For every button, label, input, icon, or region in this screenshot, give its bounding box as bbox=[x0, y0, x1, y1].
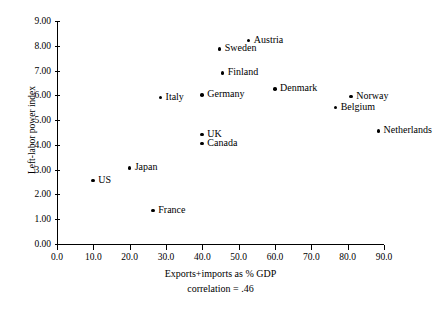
x-axis-title: Exports+imports as % GDP bbox=[57, 268, 384, 279]
x-axis-tick-label: 80.0 bbox=[328, 252, 368, 262]
data-point-marker bbox=[334, 106, 338, 110]
y-axis-tick-label: 0.00 bbox=[21, 239, 51, 249]
x-axis-tick-label: 0.0 bbox=[37, 252, 77, 262]
data-point-label: Denmark bbox=[280, 82, 317, 93]
x-axis-tick-label: 40.0 bbox=[182, 252, 222, 262]
x-axis-tick bbox=[57, 245, 58, 250]
y-axis-tick bbox=[55, 120, 60, 121]
y-axis-tick-label: 1.00 bbox=[21, 214, 51, 224]
y-axis-line bbox=[57, 21, 58, 245]
data-point-label: Sweden bbox=[225, 42, 257, 53]
x-axis-tick bbox=[239, 245, 240, 250]
data-point-marker bbox=[218, 47, 222, 51]
scatter-plot: 0.001.002.003.004.005.006.007.008.009.00… bbox=[0, 0, 446, 313]
data-point-marker bbox=[159, 96, 163, 100]
data-point-marker bbox=[151, 209, 155, 213]
x-axis-tick-label: 50.0 bbox=[219, 252, 259, 262]
data-point-label: Norway bbox=[356, 90, 388, 101]
data-point-label: Netherlands bbox=[384, 124, 432, 135]
y-axis-tick bbox=[55, 21, 60, 22]
data-point-marker bbox=[377, 129, 381, 133]
x-axis-tick-label: 60.0 bbox=[255, 252, 295, 262]
data-point-label: Belgium bbox=[341, 101, 375, 112]
data-point-marker bbox=[200, 142, 204, 146]
x-axis-tick-label: 90.0 bbox=[364, 252, 404, 262]
x-axis-tick-label: 20.0 bbox=[110, 252, 150, 262]
x-axis-tick-label: 10.0 bbox=[73, 252, 113, 262]
x-axis-tick bbox=[348, 245, 349, 250]
x-axis-tick bbox=[384, 245, 385, 250]
x-axis-tick bbox=[130, 245, 131, 250]
data-point-label: Finland bbox=[228, 66, 259, 77]
y-axis-tick bbox=[55, 170, 60, 171]
data-point-marker bbox=[91, 179, 95, 183]
data-point-marker bbox=[200, 93, 204, 97]
data-point-label: France bbox=[158, 204, 185, 215]
data-point-label: Austria bbox=[254, 34, 283, 45]
x-axis-tick bbox=[311, 245, 312, 250]
data-point-marker bbox=[273, 87, 277, 91]
x-axis-tick-label: 30.0 bbox=[146, 252, 186, 262]
x-axis-tick bbox=[275, 245, 276, 250]
correlation-annotation: correlation = .46 bbox=[57, 283, 384, 294]
data-point-marker bbox=[128, 166, 132, 170]
y-axis-tick bbox=[55, 219, 60, 220]
x-axis-tick-label: 70.0 bbox=[291, 252, 331, 262]
y-axis-tick bbox=[55, 46, 60, 47]
data-point-label: Italy bbox=[166, 91, 184, 102]
y-axis-tick bbox=[55, 71, 60, 72]
y-axis-tick bbox=[55, 194, 60, 195]
y-axis-title: Left-labor power index bbox=[27, 50, 37, 210]
x-axis-tick bbox=[93, 245, 94, 250]
y-axis-tick-label: 9.00 bbox=[21, 16, 51, 26]
data-point-label: UK bbox=[207, 128, 221, 139]
data-point-label: Japan bbox=[135, 161, 158, 172]
data-point-marker bbox=[200, 133, 204, 137]
x-axis-line bbox=[57, 244, 384, 245]
y-axis-tick bbox=[55, 95, 60, 96]
data-point-marker bbox=[349, 95, 353, 99]
data-point-label: US bbox=[98, 174, 111, 185]
x-axis-tick bbox=[202, 245, 203, 250]
data-point-label: Germany bbox=[207, 88, 244, 99]
data-point-marker bbox=[221, 71, 225, 75]
x-axis-tick bbox=[166, 245, 167, 250]
y-axis-tick bbox=[55, 145, 60, 146]
